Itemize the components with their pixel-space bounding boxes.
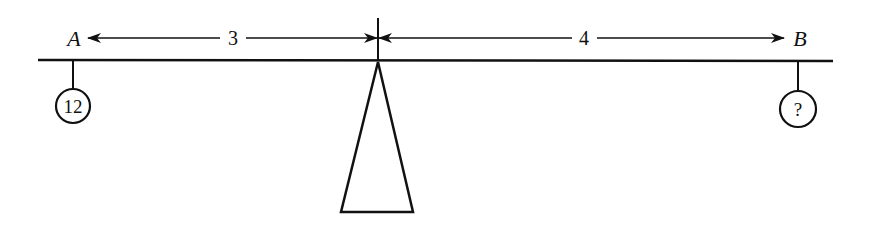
left-arm-distance-label: 3: [228, 27, 238, 49]
right-arm-distance-label: 4: [579, 27, 589, 49]
left-weight-value: 12: [64, 96, 83, 117]
right-weight-value: ?: [794, 99, 802, 120]
point-a-label: A: [65, 26, 81, 51]
lever-diagram: fulcrum --> 3 B --> 4 A B 12 ?: [0, 0, 874, 225]
fulcrum-triangle: [341, 62, 413, 212]
point-b-label: B: [793, 26, 806, 51]
lever-beam: [38, 60, 833, 61]
